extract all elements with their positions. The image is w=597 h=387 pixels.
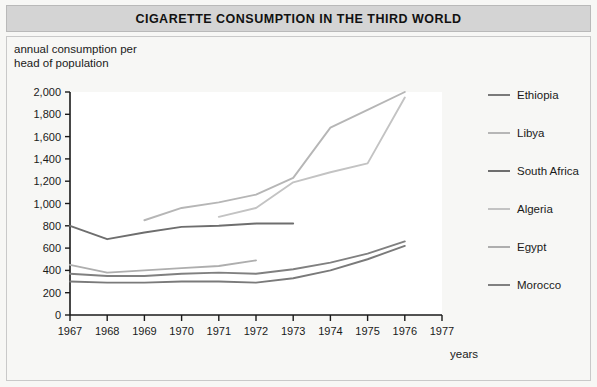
chart-legend: EthiopiaLibyaSouth AfricaAlgeriaEgyptMor… — [488, 76, 593, 304]
y-axis-tick-label: 2,000 — [33, 86, 61, 98]
y-axis-tick-label: 1,400 — [33, 153, 61, 165]
legend-item-algeria[interactable]: Algeria — [488, 190, 593, 228]
x-axis-tick-label: 1972 — [244, 325, 268, 337]
x-axis-tick-label: 1976 — [393, 325, 417, 337]
x-axis-tick-label: 1969 — [132, 325, 156, 337]
legend-item-label: Algeria — [517, 203, 553, 215]
legend-swatch-icon — [488, 170, 510, 172]
y-axis-tick-label: 1,000 — [33, 198, 61, 210]
legend-swatch-icon — [488, 208, 510, 210]
chart-page: CIGARETTE CONSUMPTION IN THE THIRD WORLD… — [0, 0, 597, 387]
legend-item-label: Libya — [517, 127, 545, 139]
legend-swatch-icon — [488, 284, 510, 286]
x-axis-tick-label: 1973 — [281, 325, 305, 337]
x-axis-tick-label: 1967 — [58, 325, 82, 337]
plot-background — [70, 92, 442, 315]
legend-item-label: Ethiopia — [517, 89, 559, 101]
y-axis-tick-label: 600 — [43, 242, 61, 254]
legend-item-label: Morocco — [517, 279, 561, 291]
legend-item-libya[interactable]: Libya — [488, 114, 593, 152]
y-axis-tick-label: 200 — [43, 287, 61, 299]
legend-item-egypt[interactable]: Egypt — [488, 228, 593, 266]
legend-swatch-icon — [488, 246, 510, 248]
legend-item-south-africa[interactable]: South Africa — [488, 152, 593, 190]
x-axis-label: years — [450, 348, 478, 360]
legend-swatch-icon — [488, 94, 510, 96]
legend-item-label: South Africa — [517, 165, 579, 177]
y-axis-tick-label: 1,800 — [33, 108, 61, 120]
x-axis-tick-label: 1977 — [430, 325, 454, 337]
y-axis-tick-label: 400 — [43, 264, 61, 276]
y-axis-tick-label: 1,600 — [33, 131, 61, 143]
legend-item-label: Egypt — [517, 241, 546, 253]
x-axis-tick-label: 1968 — [95, 325, 119, 337]
y-axis-tick-label: 800 — [43, 220, 61, 232]
legend-item-morocco[interactable]: Morocco — [488, 266, 593, 304]
y-axis-tick-label: 0 — [55, 309, 61, 321]
x-axis-tick-label: 1971 — [207, 325, 231, 337]
legend-item-ethiopia[interactable]: Ethiopia — [488, 76, 593, 114]
y-axis-tick-label: 1,200 — [33, 175, 61, 187]
x-axis-tick-label: 1974 — [318, 325, 342, 337]
x-axis-tick-label: 1975 — [355, 325, 379, 337]
x-axis-tick-label: 1970 — [169, 325, 193, 337]
legend-swatch-icon — [488, 132, 510, 134]
